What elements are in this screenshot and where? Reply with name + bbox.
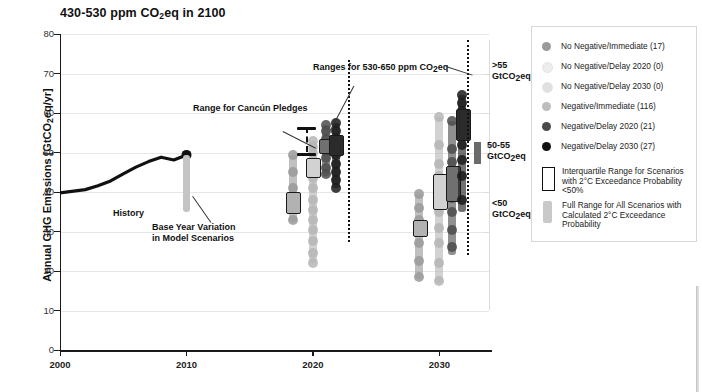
legend-marker-icon [542, 62, 553, 73]
scenario-point [308, 258, 318, 268]
legend-item-label: Negative/Delay 2020 (21) [561, 121, 655, 131]
legend-item-label: Negative/Immediate (116) [561, 101, 656, 111]
scenario-point [434, 140, 444, 150]
right-label-3: <50GtCO2eq [492, 198, 531, 222]
right-label-unit: GtCO2eq [492, 71, 531, 84]
history-annotation: History [113, 208, 144, 219]
interquartile-box [286, 192, 301, 214]
y-tick-label: 70 [28, 68, 54, 79]
y-tick-label: 50 [28, 147, 54, 158]
scenario-point [457, 140, 467, 150]
base-year-annotation: Base Year Variation in Model Scenarios [152, 222, 235, 244]
cancun-stem [306, 127, 308, 153]
chart-title: 430-530 ppm CO2eq in 2100 [60, 6, 226, 21]
y-axis-label-subscript: 2 [45, 118, 55, 123]
x-tick-label: 2010 [157, 359, 217, 370]
chart-title-pre: 430-530 ppm CO [60, 6, 159, 20]
ranges-annotation: Ranges for 530-650 ppm CO2eq [313, 62, 448, 75]
y-tick-label: 80 [28, 28, 54, 39]
base-year-line1: Base Year Variation [152, 222, 235, 233]
scenario-point [308, 195, 318, 205]
legend-fullrange-swatch [543, 201, 552, 223]
right-label-1: >55GtCO2eq [492, 60, 531, 84]
y-tick-label: 10 [28, 305, 54, 316]
right-label-value: 50-55 [487, 140, 526, 151]
scenario-point [447, 144, 457, 154]
x-tick-label: 2020 [283, 359, 343, 370]
legend-iqr-line3: <50% [562, 186, 690, 196]
right-label-2: 50-55GtCO2eq [487, 140, 526, 164]
chart-title-post: eq in 2100 [164, 6, 225, 20]
x-tick-label: 2030 [409, 359, 469, 370]
y-axis-label: Annual GHG Emissions [GtCO2eq/yr] [41, 45, 55, 325]
y-tick-label: 40 [28, 186, 54, 197]
y-tick-label: 60 [28, 107, 54, 118]
range-50-55-swatch [474, 142, 481, 164]
base-year-variation-range [183, 155, 190, 212]
interquartile-box [413, 220, 428, 238]
history-line [60, 34, 492, 352]
base-year-line2: in Model Scenarios [152, 233, 235, 244]
scenario-point [308, 215, 318, 225]
legend-marker-icon [542, 142, 551, 151]
right-label-unit: GtCO2eq [487, 151, 526, 164]
chart-root: 430-530 ppm CO2eq in 2100 Annual GHG Emi… [0, 0, 702, 392]
legend-marker-icon [542, 102, 551, 111]
cancun-bottom-cap [297, 153, 316, 156]
dotted-separator-1 [348, 60, 350, 242]
legend-item-label: Negative/Delay 2030 (27) [561, 141, 655, 151]
interquartile-box [306, 158, 321, 178]
legend-iqr-text: Interquartile Range for Scenarios with 2… [562, 167, 690, 196]
history-polyline [60, 155, 187, 193]
legend-iqr-swatch [542, 167, 555, 191]
scenario-point [308, 205, 318, 215]
y-tick-label: 30 [28, 226, 54, 237]
legend-item-label: No Negative/Immediate (17) [561, 41, 665, 51]
legend-fullrange-text: Full Range for All Scenarios with Calcul… [562, 201, 690, 230]
scenario-point [331, 183, 341, 193]
legend-fullrange-line3: Probability [562, 220, 690, 230]
legend-marker-icon [542, 122, 551, 131]
right-label-value: >55 [492, 60, 531, 71]
scenario-point [288, 215, 298, 225]
scenario-point [308, 183, 318, 193]
x-tick-label: 2000 [30, 359, 90, 370]
scenario-point [447, 225, 457, 235]
legend-marker-icon [542, 82, 553, 93]
ranges-annotation-pre: Ranges for 530-650 ppm CO [313, 62, 433, 72]
scenario-point [308, 225, 318, 235]
legend-item-label: No Negative/Delay 2020 (0) [561, 61, 663, 71]
cancun-annotation: Range for Cancún Pledges [193, 103, 308, 114]
legend-panel: No Negative/Immediate (17)No Negative/De… [531, 26, 697, 242]
right-label-unit: GtCO2eq [492, 209, 531, 222]
right-label-value: <50 [492, 198, 531, 209]
window-edge-artifact [696, 286, 699, 392]
y-tick-label: 20 [28, 265, 54, 276]
interquartile-box [329, 135, 344, 157]
legend-marker-icon [542, 42, 551, 51]
scenario-point [434, 223, 444, 233]
y-tick-label: 0 [28, 344, 54, 355]
legend-item-label: No Negative/Delay 2030 (0) [561, 81, 663, 91]
